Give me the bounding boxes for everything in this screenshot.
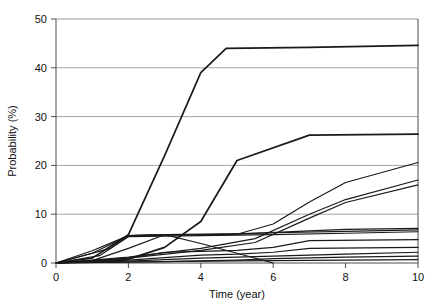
y-tick-label-0: 0 — [41, 257, 47, 269]
y-tick-label-30: 30 — [35, 111, 47, 123]
probability-vs-time-line-chart: 0246810 01020304050 Time (year) Probabil… — [0, 0, 442, 306]
x-tick-label-6: 6 — [270, 271, 276, 283]
y-tick-label-10: 10 — [35, 208, 47, 220]
y-tick-label-20: 20 — [35, 159, 47, 171]
y-tick-label-40: 40 — [35, 62, 47, 74]
x-axis-title: Time (year) — [209, 288, 265, 300]
y-tick-label-50: 50 — [35, 13, 47, 25]
x-tick-label-10: 10 — [412, 271, 424, 283]
chart-container: 0246810 01020304050 Time (year) Probabil… — [0, 0, 442, 306]
x-tick-label-4: 4 — [198, 271, 204, 283]
x-tick-label-0: 0 — [53, 271, 59, 283]
x-tick-label-2: 2 — [125, 271, 131, 283]
y-axis-title: Probability (%) — [6, 105, 18, 177]
x-tick-label-8: 8 — [343, 271, 349, 283]
